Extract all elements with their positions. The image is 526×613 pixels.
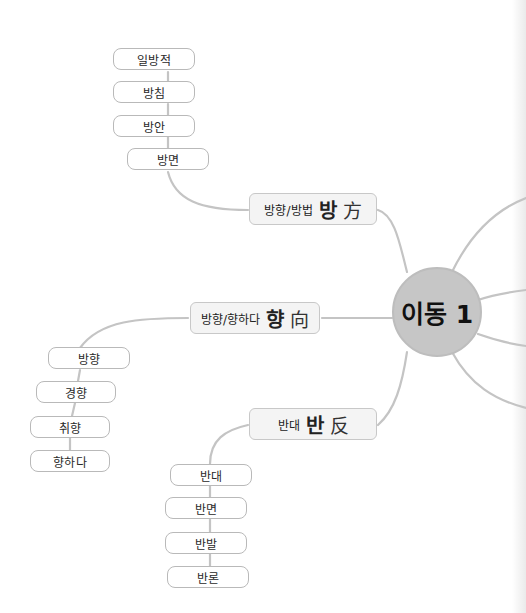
leaf-node[interactable]: 방침 [113, 81, 195, 103]
branch-node-ban[interactable]: 반대 반 反 [249, 408, 377, 440]
branch-korean-char: 반 [306, 410, 324, 439]
branch-hanja-char: 反 [330, 411, 349, 438]
leaf-node[interactable]: 반발 [165, 532, 247, 554]
leaf-node[interactable]: 향하다 [30, 450, 110, 472]
branch-hanja-char: 方 [343, 196, 362, 223]
leaf-node[interactable]: 취향 [30, 416, 110, 438]
leaf-node[interactable]: 반면 [165, 497, 247, 519]
branch-hanja-char: 向 [290, 305, 309, 332]
leaf-node[interactable]: 방안 [113, 115, 195, 137]
branch-node-hyang[interactable]: 방향/향하다 향 向 [190, 302, 320, 334]
leaf-node[interactable]: 방면 [127, 148, 209, 170]
branch-korean-char: 방 [319, 195, 337, 224]
leaf-node[interactable]: 경향 [36, 381, 116, 403]
leaf-node[interactable]: 일방적 [113, 48, 195, 70]
branch-subtitle: 반대 [278, 416, 300, 433]
leaf-node[interactable]: 반론 [167, 566, 249, 588]
branch-node-bang[interactable]: 방향/방법 방 方 [249, 193, 377, 225]
leaf-node[interactable]: 반대 [170, 464, 252, 486]
branch-korean-char: 향 [266, 304, 284, 333]
branch-subtitle: 방향/향하다 [201, 310, 260, 327]
leaf-node[interactable]: 방향 [48, 347, 130, 369]
central-topic-node[interactable]: 이동 1 [392, 267, 482, 357]
branch-subtitle: 방향/방법 [264, 201, 312, 218]
